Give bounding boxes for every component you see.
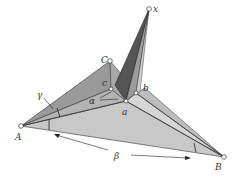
vertex-x — [147, 7, 152, 12]
label-gamma: γ — [37, 90, 43, 100]
vertex-B — [222, 155, 227, 160]
label-x: x — [153, 4, 158, 14]
label-A: A — [14, 132, 22, 142]
vertex-a — [124, 99, 128, 103]
label-c: c — [102, 78, 107, 88]
label-b: b — [143, 83, 149, 93]
label-a: a — [122, 107, 127, 117]
label-beta: β — [113, 151, 119, 161]
beta-arrowhead-right — [185, 156, 191, 160]
vertex-b — [134, 91, 138, 95]
beta-arrow-right — [131, 155, 188, 158]
vertex-C — [108, 59, 113, 64]
label-B: B — [214, 162, 222, 172]
label-C: C — [101, 55, 108, 65]
label-alpha: α — [89, 96, 95, 106]
vertex-c — [109, 87, 113, 91]
diagram-canvas: x C c a b A B α β γ — [0, 0, 240, 181]
vertex-A — [19, 124, 24, 129]
